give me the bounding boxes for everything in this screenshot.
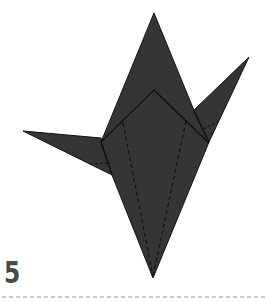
main-body — [101, 13, 209, 278]
origami-figure — [0, 0, 268, 303]
step-number: 5 — [4, 258, 20, 288]
left-wing — [23, 131, 112, 175]
origami-diagram: 5 — [0, 0, 268, 303]
